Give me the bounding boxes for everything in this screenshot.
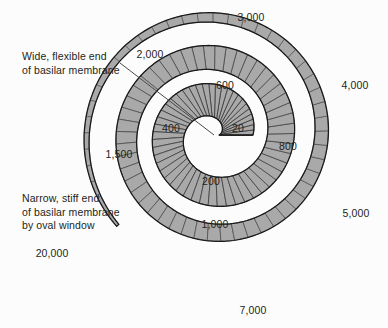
callout-narrow-line-3: by oval window <box>22 219 120 233</box>
callout-narrow-line-1: Narrow, stiff end <box>22 192 120 206</box>
basilar-membrane-segments <box>84 13 328 242</box>
frequency-label-2000: 2,000 <box>137 48 164 60</box>
frequency-label-4000: 4,000 <box>342 79 369 91</box>
frequency-label-800: 800 <box>279 140 297 152</box>
callout-wide-line-1: Wide, flexible end <box>22 50 120 64</box>
frequency-label-5000: 5,000 <box>343 207 370 219</box>
callout-narrow-stiff-end: Narrow, stiff end of basilar membrane by… <box>22 192 120 233</box>
frequency-label-1500: 1,500 <box>106 148 133 160</box>
callout-wide-flexible-end: Wide, flexible end of basilar membrane <box>22 50 120 77</box>
frequency-label-7000: 7,000 <box>240 304 267 316</box>
frequency-label-400: 400 <box>162 122 180 134</box>
membrane-segment <box>314 131 329 146</box>
callout-narrow-line-2: of basilar membrane <box>22 206 120 220</box>
frequency-label-200: 200 <box>202 175 220 187</box>
frequency-label-20000: 20,000 <box>36 247 69 259</box>
frequency-label-3000: 3,000 <box>238 11 265 23</box>
membrane-segment <box>315 116 329 131</box>
membrane-segment <box>197 13 213 23</box>
frequency-label-20: 20 <box>232 122 244 134</box>
cochlea-diagram: Wide, flexible end of basilar membrane N… <box>0 0 388 328</box>
frequency-label-600: 600 <box>216 79 234 91</box>
frequency-label-1000: 1,000 <box>202 218 229 230</box>
callout-wide-line-2: of basilar membrane <box>22 64 120 78</box>
